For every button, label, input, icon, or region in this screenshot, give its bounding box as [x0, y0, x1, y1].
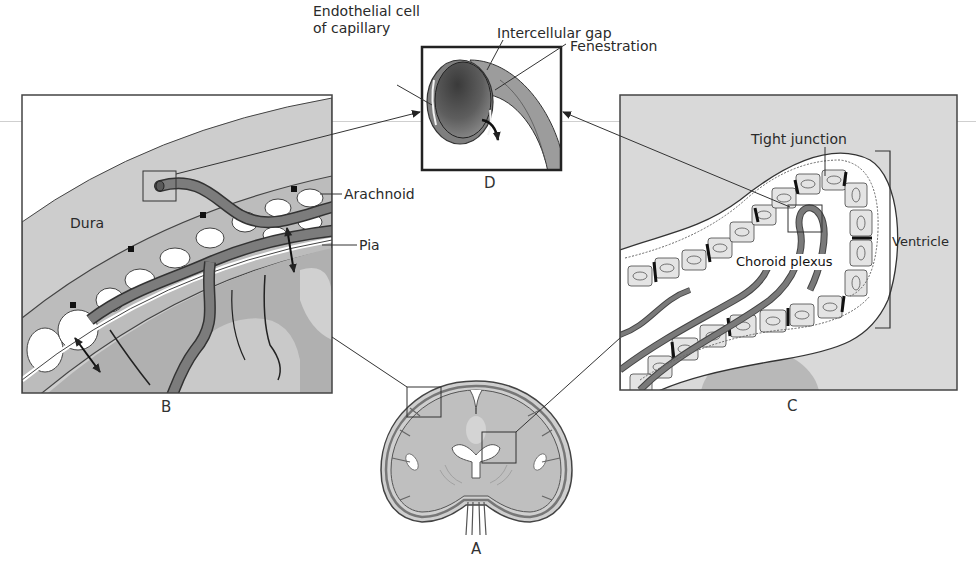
- panel-letter-c: C: [787, 397, 797, 415]
- panel-d: [422, 47, 565, 172]
- panel-letter-d: D: [484, 174, 496, 192]
- label-tight-junction: Tight junction: [751, 131, 847, 147]
- label-pia: Pia: [359, 237, 380, 253]
- panel-letter-a: A: [471, 540, 481, 558]
- diagram-canvas: [0, 0, 976, 572]
- label-endothelial-line2: of capillary: [313, 20, 390, 36]
- label-choroid-plexus: Choroid plexus: [735, 254, 834, 270]
- label-endothelial-line1: Endothelial cell: [313, 3, 420, 19]
- panel-letter-b: B: [161, 398, 171, 416]
- connector-a-to-b: [332, 337, 407, 387]
- label-fenestration: Fenestration: [570, 38, 657, 54]
- panel-a-brain: [381, 381, 572, 535]
- label-dura: Dura: [70, 215, 104, 231]
- label-ventricle: Ventricle: [892, 234, 949, 250]
- label-arachnoid: Arachnoid: [344, 186, 415, 202]
- panel-b: [22, 95, 340, 410]
- connector-a-to-c: [516, 338, 620, 432]
